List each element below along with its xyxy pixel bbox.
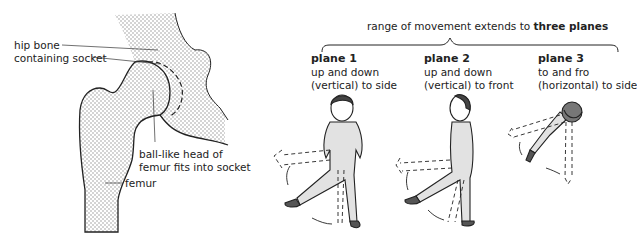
plane-1-desc-2: (vertical) to side — [311, 79, 397, 92]
label-ball-head: ball-like head of — [139, 148, 223, 161]
banner-text: range of movement extends to — [367, 20, 534, 32]
plane-2-title: plane 2 — [424, 52, 470, 65]
femur-illustration — [79, 61, 182, 232]
label-fits-socket: femur fits into socket — [139, 161, 251, 174]
movement-banner: range of movement extends to three plane… — [367, 20, 608, 33]
figure-plane-3 — [508, 102, 582, 184]
plane-1-desc-1: up and down — [311, 66, 379, 79]
bracket-brace — [322, 38, 618, 52]
plane-3-title: plane 3 — [538, 52, 584, 65]
plane-3-desc-2: (horizontal) to side — [538, 79, 637, 92]
plane-2-desc-2: (vertical) to front — [424, 79, 514, 92]
label-hip-bone: hip bone — [14, 39, 60, 52]
label-containing-socket: containing socket — [14, 52, 107, 65]
plane-2-desc-1: up and down — [424, 66, 492, 79]
figure-plane-1 — [274, 95, 362, 228]
figure-plane-2 — [396, 95, 474, 226]
banner-bold-text: three planes — [534, 20, 609, 32]
plane-1-title: plane 1 — [311, 52, 357, 65]
label-femur: femur — [125, 177, 156, 190]
plane-3-desc-1: to and fro — [538, 66, 589, 79]
